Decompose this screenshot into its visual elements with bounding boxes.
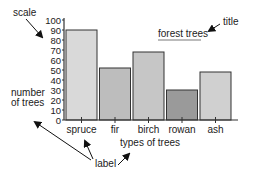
annotation-scale: scale	[13, 7, 37, 18]
y-tick-label: 70	[50, 45, 61, 56]
x-tick-label: fir	[111, 124, 120, 135]
label-arrow-xlabel	[118, 154, 129, 165]
y-tick-label: 90	[50, 25, 61, 36]
title-arrow	[209, 24, 220, 31]
y-tick-label: 0	[56, 115, 61, 126]
y-tick-label: 40	[50, 75, 61, 86]
bar-rowan	[167, 90, 198, 120]
x-tick-label: spruce	[66, 124, 96, 135]
x-tick-label: birch	[138, 124, 160, 135]
annotation-label: label	[95, 158, 116, 169]
x-axis-label: types of trees	[120, 137, 180, 148]
annotation-title: title	[223, 16, 239, 27]
y-tick-label: 60	[50, 55, 61, 66]
y-tick-label: 30	[50, 85, 61, 96]
y-tick-label: 80	[50, 35, 61, 46]
y-tick-label: 10	[50, 105, 61, 116]
bar-fir	[100, 68, 131, 120]
y-tick-label: 100	[45, 15, 61, 26]
x-tick-label: ash	[207, 124, 223, 135]
y-axis-label-line2: of trees	[11, 97, 44, 108]
bar-birch	[133, 52, 164, 120]
bar-ash	[200, 72, 231, 120]
y-tick-labels: 0102030405060708090100	[45, 15, 64, 126]
x-tick-label: rowan	[168, 124, 195, 135]
bars-group	[66, 30, 231, 120]
bar-chart: 0102030405060708090100 sprucefirbirchrow…	[0, 0, 253, 183]
scale-arrow	[26, 19, 42, 37]
bar-spruce	[66, 30, 97, 120]
chart-title: forest trees	[158, 28, 208, 39]
y-tick-label: 50	[50, 65, 61, 76]
y-tick-label: 20	[50, 95, 61, 106]
